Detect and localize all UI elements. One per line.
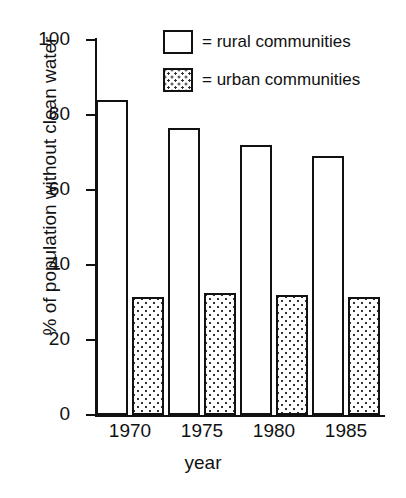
y-tick-mark xyxy=(86,39,96,41)
bar-urban-1970 xyxy=(132,297,164,415)
bar-rural-1970 xyxy=(96,100,128,415)
bar-urban-1985 xyxy=(348,297,380,415)
bar-urban-1980 xyxy=(276,295,308,415)
x-axis-title: year xyxy=(0,452,406,474)
y-tick-mark xyxy=(86,414,96,416)
x-tick-label: 1975 xyxy=(162,420,242,442)
plot-area: 020406080100 1970197519801985 year xyxy=(0,0,406,498)
bar-rural-1975 xyxy=(168,128,200,415)
bar-rural-1985 xyxy=(312,156,344,415)
y-tick-mark xyxy=(86,264,96,266)
y-tick-label: 80 xyxy=(10,103,70,125)
bar-rural-1980 xyxy=(240,145,272,415)
y-tick-mark xyxy=(86,189,96,191)
y-tick-label: 60 xyxy=(10,178,70,200)
x-tick-label: 1985 xyxy=(306,420,386,442)
x-tick-label: 1970 xyxy=(90,420,170,442)
x-axis-line xyxy=(95,415,385,417)
y-tick-label: 20 xyxy=(10,328,70,350)
y-tick-label: 0 xyxy=(10,403,70,425)
y-tick-label: 40 xyxy=(10,253,70,275)
y-tick-mark xyxy=(86,339,96,341)
x-tick-label: 1980 xyxy=(234,420,314,442)
chart-figure: % of population without clean water = ru… xyxy=(0,0,406,498)
bar-urban-1975 xyxy=(204,293,236,415)
y-tick-mark xyxy=(86,114,96,116)
y-tick-label: 100 xyxy=(10,28,70,50)
